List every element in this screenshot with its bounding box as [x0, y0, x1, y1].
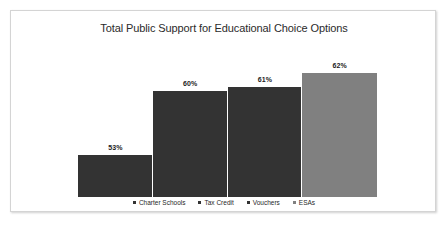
legend-item-tax-credit[interactable]: Tax Credit: [198, 199, 233, 206]
bar-value-label: 62%: [302, 62, 377, 69]
bar-value-label: 60%: [153, 80, 228, 87]
legend-swatch-icon: [133, 201, 136, 204]
bar-group: 61%: [228, 11, 303, 187]
bar-charter-schools[interactable]: [78, 155, 153, 197]
chart-legend: Charter SchoolsTax CreditVouchersESAs: [11, 199, 437, 206]
bar-vouchers[interactable]: [228, 87, 303, 197]
bar-group: 53%: [78, 11, 153, 187]
bar-group: 62%: [302, 11, 377, 187]
bar-value-label: 53%: [78, 144, 153, 151]
legend-item-esas[interactable]: ESAs: [293, 199, 315, 206]
legend-label: Vouchers: [253, 199, 280, 206]
legend-swatch-icon: [293, 201, 296, 204]
bar-tax-credit[interactable]: [153, 91, 228, 197]
legend-item-charter-schools[interactable]: Charter Schools: [133, 199, 186, 206]
legend-item-vouchers[interactable]: Vouchers: [247, 199, 280, 206]
plot-area: 53%60%61%62%: [78, 11, 377, 187]
bar-esas[interactable]: [302, 73, 377, 197]
legend-swatch-icon: [247, 201, 250, 204]
legend-label: Charter Schools: [139, 199, 186, 206]
chart-frame: Total Public Support for Educational Cho…: [10, 10, 436, 212]
bar-group: 60%: [153, 11, 228, 187]
legend-swatch-icon: [198, 201, 201, 204]
legend-label: ESAs: [299, 199, 315, 206]
legend-label: Tax Credit: [204, 199, 233, 206]
bar-value-label: 61%: [228, 76, 303, 83]
